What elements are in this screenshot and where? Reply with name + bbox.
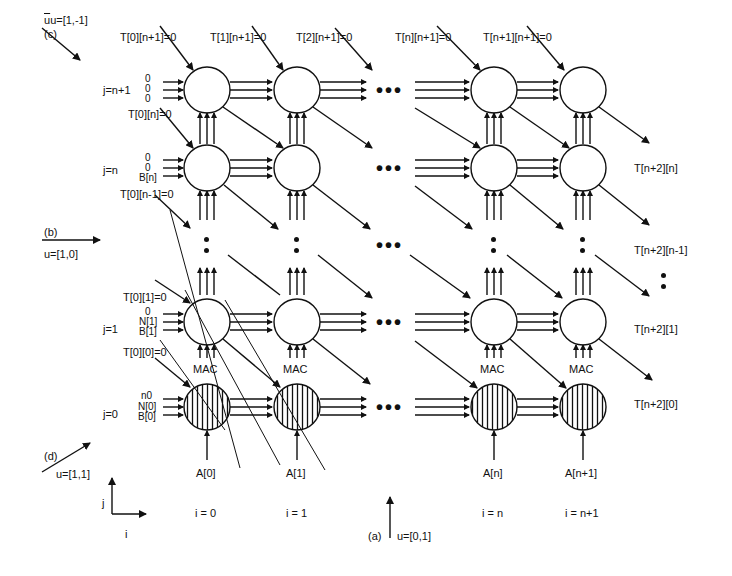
ellipsis-row-0: ••• [376,402,403,412]
input-j-0-line-2: B[0] [138,412,156,422]
row-label-j-1: j=1 [103,323,118,335]
vertical-ellipsis-col-1 [294,237,300,259]
vertical-stubs-below-j-n [200,191,590,220]
mac-label-n: MAC [480,363,504,375]
top-input-label-1: T[1][n+1]=0 [210,31,266,43]
direction-d-tag: (d) [44,450,57,462]
input-j-0-line-0: n0 [141,391,152,401]
ellipsis-row-n: ••• [376,163,403,173]
mac-label-n+1: MAC [569,363,593,375]
input-j-n-line-2: B[n] [139,173,157,183]
column-label-i-0: i = 0 [195,507,216,519]
mac-label-0: MAC [193,363,217,375]
top-input-label-3: T[n][n+1]=0 [395,31,451,43]
vertical-links-n-to-n+1 [200,113,590,144]
direction-c-tag: (c) [44,28,57,40]
input-j-n+1-line-2: 0 [145,94,151,104]
mac-label-1: MAC [283,363,307,375]
input-j-1-line-2: B[1] [139,327,157,337]
pe-node-n+1-n+1 [560,67,606,113]
bottom-input-label-0: A[0] [196,467,216,479]
column-label-i-n: i = n [482,507,503,519]
vertical-ellipsis-outputs [661,273,667,295]
pe-node-0-n+1 [184,67,230,113]
vertical-links-into-j-1 [155,268,590,303]
row-label-j-n-plus-1: j=n+1 [103,84,131,96]
bottom-input-label-n: A[n] [483,467,503,479]
column-label-i-1: i = 1 [286,507,307,519]
output-label-2: T[n+2][1] [634,323,678,335]
ellipsis-row-n+1: ••• [376,85,403,95]
output-label-3: T[n+2][0] [634,398,678,410]
direction-a-vector: u=[0,1] [397,530,431,542]
direction-b-tag: (b) [44,226,57,238]
output-label-0: T[n+2][n] [634,162,678,174]
output-label-1: T[n+2][n-1] [634,244,688,256]
top-input-label-2: T[2][n+1]=0 [296,31,352,43]
pe-node-n-n+1 [471,67,517,113]
bottom-input-label-1: A[1] [286,467,306,479]
top-input-label-4: T[n+1][n+1]=0 [483,31,552,43]
direction-d-vector: u=[1,1] [56,468,90,480]
ellipsis-row-1: ••• [376,317,403,327]
t-label-j-1: T[0][0]=0 [123,346,167,358]
vertical-ellipsis-col-n [491,237,497,259]
pe-node-1-n+1 [274,67,320,113]
t-label-j-n: T[0][n-1]=0 [120,188,174,200]
t-top-label-j-1: T[0][1]=0 [123,291,167,303]
bottom-input-label-n+1: A[n+1] [565,467,597,479]
ellipsis-row-gap: ••• [376,240,403,250]
ij-axes [112,478,146,514]
vertical-ellipsis-col-n+1 [580,237,586,259]
top-input-label-0: T[0][n+1]=0 [120,31,176,43]
axis-label-i: i [125,528,127,540]
row-label-j-n: j=n [103,164,118,176]
row-label-j-0: j=0 [103,408,118,420]
axis-label-j: j [102,497,104,509]
direction-c-vector: uu=[1,-1] [44,14,88,26]
direction-a-tag: (a) [368,530,381,542]
direction-b-vector: u=[1,0] [44,248,78,260]
diagonals-from-j-n [155,185,649,229]
t-label-j-n-plus-1: T[0][n]=0 [128,108,172,120]
vertical-ellipsis-col-0 [204,237,210,259]
diagonals-into-j-1-region [228,255,649,298]
column-label-i-n+1: i = n+1 [565,507,599,519]
